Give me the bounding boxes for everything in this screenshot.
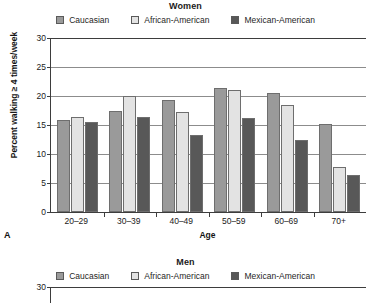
plot-men: 30 <box>0 287 371 303</box>
y-tick-label-5: 5 <box>41 178 46 188</box>
x-label-30–39: 30–39 <box>103 216 156 226</box>
bar-group-30–39 <box>104 38 157 212</box>
bar-african-american-40–49 <box>176 112 189 212</box>
legend-label-caucasian: Caucasian <box>69 15 109 25</box>
bar-caucasian-50–59 <box>214 88 227 212</box>
bar-mexican-american-30–39 <box>137 117 150 212</box>
legend-swatch-caucasian <box>56 16 64 24</box>
legend-women: Caucasian African-American Mexican-Ameri… <box>0 14 371 26</box>
bar-mexican-american-70+ <box>347 175 360 212</box>
y-tick-label-15: 15 <box>37 120 46 130</box>
axis-top-men <box>51 287 366 288</box>
bar-african-american-70+ <box>333 167 346 212</box>
legend-swatch-mexican-american <box>231 16 239 24</box>
legend-item-african-american-men: African-American <box>131 271 209 281</box>
plot-area-men: 30 <box>50 287 366 303</box>
x-label-20–29: 20–29 <box>50 216 103 226</box>
bar-caucasian-40–49 <box>162 100 175 212</box>
legend-label-mexican-american-men: Mexican-American <box>244 271 314 281</box>
x-label-40–49: 40–49 <box>155 216 208 226</box>
bar-african-american-20–29 <box>71 117 84 212</box>
y-tick-label-25: 25 <box>37 62 46 72</box>
legend-item-mexican-american-men: Mexican-American <box>231 271 314 281</box>
y-tick-label-20: 20 <box>37 91 46 101</box>
bar-mexican-american-20–29 <box>85 122 98 212</box>
legend-label-african-american-men: African-American <box>144 271 209 281</box>
legend-swatch-caucasian-men <box>56 272 64 280</box>
y-tick-label-10: 10 <box>37 149 46 159</box>
bar-caucasian-20–29 <box>57 120 70 212</box>
legend-swatch-african-american <box>131 16 139 24</box>
plot-women: Percent walking ≥ 4 times/week 051015202… <box>0 38 371 238</box>
x-label-60–69: 60–69 <box>260 216 313 226</box>
panel-title-men: Men <box>0 257 371 267</box>
bar-groups-women <box>51 38 366 212</box>
x-label-50–59: 50–59 <box>208 216 261 226</box>
legend-item-african-american: African-American <box>131 15 209 25</box>
panel-letter-a: A <box>4 230 11 240</box>
bar-mexican-american-40–49 <box>190 135 203 212</box>
y-tick-mark-0 <box>47 212 51 213</box>
bar-caucasian-60–69 <box>267 93 280 212</box>
y-tick-label-30-men: 30 <box>37 282 46 292</box>
bar-group-40–49 <box>156 38 209 212</box>
bar-group-20–29 <box>51 38 104 212</box>
figure-root: Women Caucasian African-American Mexican… <box>0 0 371 303</box>
y-tick-mark-30-men <box>47 287 51 288</box>
plot-area-women: 051015202530 <box>50 38 366 213</box>
bar-african-american-30–39 <box>123 96 136 212</box>
bar-african-american-60–69 <box>281 105 294 212</box>
y-axis-title-women: Percent walking ≥ 4 times/week <box>9 20 19 170</box>
bar-caucasian-30–39 <box>109 111 122 212</box>
legend-item-mexican-american: Mexican-American <box>231 15 314 25</box>
x-axis-title-women: Age <box>50 230 365 240</box>
legend-item-caucasian-men: Caucasian <box>56 271 109 281</box>
bar-mexican-american-60–69 <box>295 140 308 212</box>
panel-men: Men Caucasian African-American Mexican-A… <box>0 257 371 303</box>
panel-title-women: Women <box>0 1 371 11</box>
legend-label-african-american: African-American <box>144 15 209 25</box>
bar-group-70+ <box>314 38 367 212</box>
y-tick-label-0: 0 <box>41 207 46 217</box>
x-axis-labels-women: 20–2930–3940–4950–5960–6970+ <box>50 216 365 226</box>
legend-men: Caucasian African-American Mexican-Ameri… <box>0 270 371 282</box>
legend-swatch-african-american-men <box>131 272 139 280</box>
bar-caucasian-70+ <box>319 124 332 212</box>
bar-group-60–69 <box>261 38 314 212</box>
legend-swatch-mexican-american-men <box>231 272 239 280</box>
legend-label-mexican-american: Mexican-American <box>244 15 314 25</box>
bar-african-american-50–59 <box>228 90 241 212</box>
legend-item-caucasian: Caucasian <box>56 15 109 25</box>
panel-women: Women Caucasian African-American Mexican… <box>0 0 371 250</box>
bar-group-50–59 <box>209 38 262 212</box>
y-tick-label-30: 30 <box>37 33 46 43</box>
x-label-70+: 70+ <box>313 216 366 226</box>
legend-label-caucasian-men: Caucasian <box>69 271 109 281</box>
bar-mexican-american-50–59 <box>242 118 255 212</box>
